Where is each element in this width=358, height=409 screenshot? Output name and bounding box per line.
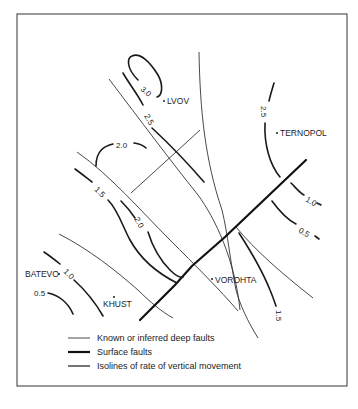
isoline-1.5-left <box>75 169 92 182</box>
iso-label-2.0-north: 2.0 <box>116 141 128 150</box>
iso-label-1.0-east: 1.0 <box>304 195 319 209</box>
legend-label-deep-faults: Known or inferred deep faults <box>97 333 215 343</box>
iso-label-2.5-east: 2.5 <box>259 106 268 118</box>
deep-fault-central-arc <box>199 52 258 338</box>
isoline-1.0-batevo <box>74 280 103 316</box>
legend-label-isolines: Isolines of rate of vertical movement <box>97 361 242 371</box>
city-dot-lvov <box>163 100 165 102</box>
iso-label-1.5-east: 1.5 <box>274 310 283 322</box>
isoline-2.5-east <box>265 123 280 177</box>
isoline-1.0-batevo-left <box>44 252 60 264</box>
isoline-2.5-west <box>152 128 204 182</box>
fault-map: 3.0 2.5 2.0 1.5 2.0 1.0 0.5 2.5 1.0 0.5 … <box>0 0 358 409</box>
isoline-1.5-east <box>239 233 276 306</box>
city-dot-vorohta <box>211 278 213 280</box>
legend: Known or inferred deep faults Surface fa… <box>68 333 242 371</box>
legend-label-surface-faults: Surface faults <box>97 347 153 357</box>
isoline-2.5-east-top <box>269 83 274 101</box>
city-label-batevo: BATEVO <box>25 269 59 279</box>
deep-fault-west-nwse <box>77 152 238 311</box>
city-label-khust: KHUST <box>103 299 132 309</box>
deep-fault-east-branch <box>236 227 313 298</box>
isoline-1.5-long <box>108 200 177 283</box>
surface-fault <box>140 160 306 320</box>
deep-fault-connector <box>131 130 200 193</box>
city-dot-ternopol <box>276 132 278 134</box>
isoline-2.0-south-a <box>121 201 135 218</box>
city-dot-khust <box>113 296 115 298</box>
iso-label-0.5-east: 0.5 <box>297 226 312 240</box>
isoline-labels: 3.0 2.5 2.0 1.5 2.0 1.0 0.5 2.5 1.0 0.5 … <box>34 85 319 322</box>
iso-label-0.5-batevo: 0.5 <box>34 289 46 298</box>
map-frame <box>17 14 347 386</box>
city-label-lvov: LVOV <box>167 96 189 106</box>
iso-label-1.5: 1.5 <box>93 185 108 200</box>
city-label-ternopol: TERNOPOL <box>280 128 327 138</box>
iso-label-2.0-south: 2.0 <box>132 216 146 231</box>
iso-label-3.0: 3.0 <box>139 85 154 99</box>
isoline-0.5-batevo <box>48 293 73 314</box>
city-label-vorohta: VOROHTA <box>215 275 257 285</box>
isoline-2.0-south-b <box>148 232 183 277</box>
